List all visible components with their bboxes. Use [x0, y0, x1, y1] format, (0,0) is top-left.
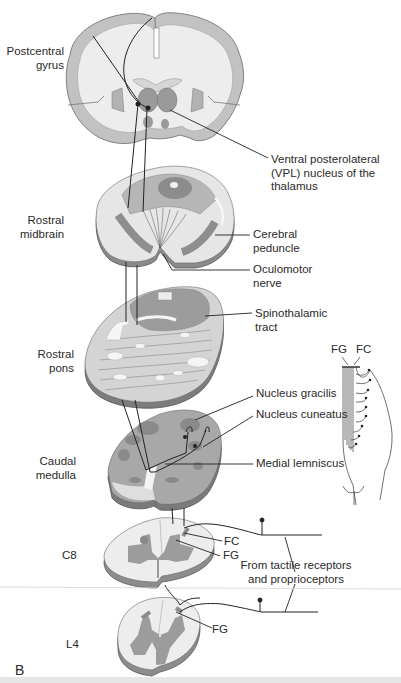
callout-nucleus-gracilis: Nucleus gracilis [256, 387, 337, 401]
label-rostral-pons: Rostral pons [20, 348, 74, 375]
label-line: medulla [20, 469, 76, 483]
label-line: midbrain [20, 228, 64, 242]
inset-label-fc: FC [356, 343, 371, 357]
label-line: Rostral [20, 348, 74, 362]
midbrain-section [96, 166, 234, 268]
label-line: Postcentral [6, 45, 64, 59]
callout-c8-fc: FC [224, 535, 239, 549]
label-line: pons [20, 362, 74, 376]
c8-spinal-section [104, 518, 214, 588]
callout-cerebral-peduncle: Cerebral peduncle [253, 228, 300, 255]
label-line: and proprioceptors [235, 573, 357, 587]
label-line: Rostral [20, 214, 64, 228]
callout-vpl-nucleus: Ventral posterolateral (VPL) nucleus of … [271, 153, 380, 194]
label-line: gyrus [6, 59, 64, 73]
label-line: peduncle [253, 242, 300, 256]
label-postcentral-gyrus: Postcentral gyrus [6, 45, 64, 72]
label-c8: C8 [62, 549, 77, 563]
label-line: Spinothalamic [255, 307, 327, 321]
l4-spinal-section [118, 597, 200, 676]
callout-medial-lemniscus: Medial lemniscus [256, 457, 344, 471]
dorsal-column-inset [342, 357, 392, 505]
inset-label-fg: FG [331, 343, 347, 357]
label-line: nerve [253, 277, 312, 291]
label-line: tract [255, 321, 327, 335]
panel-label: B [15, 662, 24, 678]
label-l4: L4 [66, 638, 79, 652]
label-line: (VPL) nucleus of the [271, 167, 380, 181]
bottom-band [0, 677, 401, 683]
medulla-section [108, 410, 221, 510]
callout-oculomotor-nerve: Oculomotor nerve [253, 263, 312, 290]
label-line: Caudal [20, 455, 76, 469]
label-line: thalamus [271, 180, 380, 194]
label-caudal-medulla: Caudal medulla [20, 455, 76, 482]
pons-section [85, 287, 224, 409]
callout-spinothalamic-tract: Spinothalamic tract [255, 307, 327, 334]
callout-receptors: From tactile receptors and proprioceptor… [235, 559, 357, 586]
coronal-brain-section [66, 13, 243, 144]
label-line: Cerebral [253, 228, 300, 242]
callout-nucleus-cuneatus: Nucleus cuneatus [256, 408, 347, 422]
label-line: Ventral posterolateral [271, 153, 380, 167]
label-line: Oculomotor [253, 263, 312, 277]
panel-divider [0, 587, 401, 589]
label-line: From tactile receptors [235, 559, 357, 573]
label-rostral-midbrain: Rostral midbrain [20, 214, 64, 241]
callout-l4-fg: FG [212, 623, 228, 637]
inset-synapse-dots [355, 369, 372, 446]
